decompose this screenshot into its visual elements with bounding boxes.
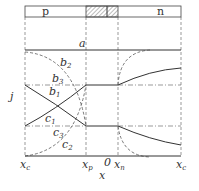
region-label-n: n: [157, 5, 164, 18]
label-b2: b2: [60, 56, 72, 70]
curve-right-upper-dashed: [118, 50, 150, 85]
region-label-p: p: [42, 5, 49, 18]
tick-xc-right: xc: [176, 158, 186, 172]
pn-junction-current-diagram: p n a b2 b3 b1 c1 c3 c2 j xc xp 0 xn: [0, 0, 199, 191]
y-axis-label: j: [7, 90, 14, 103]
label-c2: c2: [62, 138, 73, 152]
tick-xn: xn: [114, 158, 125, 172]
label-b1: b1: [49, 85, 61, 99]
tick-xp: xp: [82, 158, 93, 172]
depletion-region-hatch: [86, 6, 118, 17]
label-c1: c1: [45, 112, 56, 126]
label-a: a: [79, 37, 86, 50]
tick-origin: 0: [104, 156, 111, 169]
curve-right-upper-solid: [118, 68, 181, 85]
tick-xc-left: xc: [20, 158, 30, 172]
curve-right-lower-dashed: [118, 126, 150, 157]
x-axis-label: x: [99, 169, 106, 182]
curve-right-lower-solid: [118, 126, 181, 145]
label-b3: b3: [52, 72, 64, 86]
